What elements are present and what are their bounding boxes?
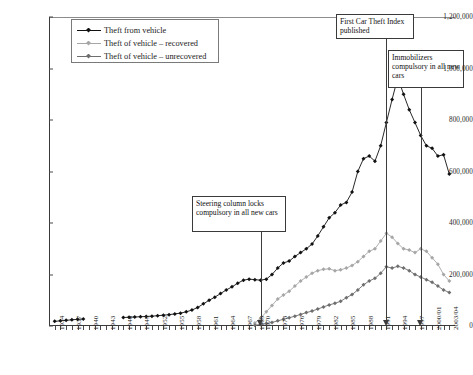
x-axis-tick-label: 1961 [212, 316, 220, 330]
x-axis-tick [444, 326, 445, 330]
data-point-marker [424, 144, 428, 148]
x-axis-tick [83, 326, 84, 330]
x-axis-tick-label: 1958 [195, 316, 203, 330]
x-axis-tick-label: 1985 [349, 316, 357, 330]
y-axis-tick-label: 600,000 [428, 168, 473, 176]
x-axis-tick [255, 326, 256, 330]
legend-label: Theft from vehicle [104, 26, 166, 35]
chart-legend: Theft from vehicle Theft of vehicle – re… [71, 19, 219, 63]
x-axis-tick [449, 326, 450, 330]
data-point-marker [156, 314, 160, 318]
x-axis-tick-label: 1994 [401, 316, 409, 330]
data-point-marker [339, 268, 343, 272]
data-point-marker [173, 312, 177, 316]
x-axis-tick [192, 326, 193, 330]
y-axis-tick [49, 326, 53, 327]
legend-label: Theft of vehicle – recovered [104, 39, 198, 48]
x-axis-tick [118, 326, 119, 330]
legend-marker-icon [77, 39, 101, 49]
data-point-marker [190, 308, 194, 312]
data-point-marker [241, 278, 245, 282]
x-axis-tick [66, 326, 67, 330]
data-point-marker [402, 266, 406, 270]
annotation-leader-line [421, 88, 422, 320]
data-point-marker [121, 316, 125, 320]
x-axis-tick [106, 326, 107, 330]
x-axis-tick [295, 326, 296, 330]
data-point-marker [390, 97, 394, 101]
x-axis-tick [409, 326, 410, 330]
data-point-marker [333, 269, 337, 273]
annotation-arrow-icon [417, 320, 423, 326]
data-point-marker [442, 153, 446, 157]
x-axis-tick-label: 1937 [75, 316, 83, 330]
data-point-marker [350, 190, 354, 194]
y-axis-tick [49, 223, 53, 224]
series-line [123, 78, 449, 318]
y-axis-tick [49, 68, 53, 69]
x-axis-tick [140, 326, 141, 330]
x-axis-tick-label: 1946 [126, 316, 134, 330]
chart-root: Theft from vehicle Theft of vehicle – re… [0, 0, 473, 375]
x-axis-tick [392, 326, 393, 330]
data-point-marker [53, 319, 57, 323]
data-point-marker [327, 267, 331, 271]
data-point-marker [396, 264, 400, 268]
data-point-marker [390, 266, 394, 270]
data-point-marker [407, 248, 411, 252]
legend-marker-icon [77, 26, 101, 36]
x-axis-tick-label: 1943 [109, 316, 117, 330]
x-axis-tick [169, 326, 170, 330]
y-axis-tick [49, 274, 53, 275]
x-axis-tick [55, 326, 56, 330]
data-point-marker [304, 311, 308, 315]
data-point-marker [344, 200, 348, 204]
data-point-marker [402, 92, 406, 96]
data-point-marker [316, 269, 320, 273]
x-axis-tick [398, 326, 399, 330]
x-axis-tick [123, 326, 124, 330]
annotation-arrow-icon [257, 320, 263, 326]
data-point-marker [356, 170, 360, 174]
legend-marker-icon [77, 52, 101, 62]
data-point-marker [247, 277, 251, 281]
x-axis-tick-label: 1967 [246, 316, 254, 330]
y-axis-tick [49, 120, 53, 121]
annotation-leader-line [386, 39, 387, 320]
data-point-marker [407, 108, 411, 112]
data-point-marker [293, 314, 297, 318]
y-axis-tick-label: 1,000,000 [428, 65, 473, 73]
x-axis-tick [375, 326, 376, 330]
data-point-marker [310, 309, 314, 313]
legend-label: Theft of vehicle – unrecovered [104, 52, 206, 61]
x-axis-tick [203, 326, 204, 330]
x-axis-tick [289, 326, 290, 330]
x-axis-tick-label: 1976 [298, 316, 306, 330]
y-axis-tick [49, 17, 53, 18]
x-axis-tick-label: 1940 [92, 316, 100, 330]
data-point-marker [70, 318, 74, 322]
y-axis-tick-label: 400,000 [428, 219, 473, 227]
data-point-marker [321, 267, 325, 271]
x-axis-tick [89, 326, 90, 330]
x-axis-tick-label: 2000/01 [435, 306, 443, 330]
x-axis-tick [175, 326, 176, 330]
legend-item-theft-of-vehicle-unrecovered: Theft of vehicle – unrecovered [77, 50, 213, 63]
data-point-marker [184, 310, 188, 314]
data-point-marker [316, 307, 320, 311]
x-axis-tick [243, 326, 244, 330]
legend-item-theft-of-vehicle-recovered: Theft of vehicle – recovered [77, 37, 213, 50]
x-axis-tick [432, 326, 433, 330]
x-axis-tick [381, 326, 382, 330]
x-axis-tick-label: 1964 [229, 316, 237, 330]
x-axis-tick [209, 326, 210, 330]
data-point-marker [447, 291, 451, 295]
x-axis-tick [329, 326, 330, 330]
x-axis-tick [341, 326, 342, 330]
y-axis-tick-label: 200,000 [428, 271, 473, 279]
annotation-arrow-icon [383, 320, 389, 326]
x-axis-tick [135, 326, 136, 330]
x-axis-tick [238, 326, 239, 330]
x-axis-tick [278, 326, 279, 330]
x-axis-tick-label: 1934 [58, 316, 66, 330]
